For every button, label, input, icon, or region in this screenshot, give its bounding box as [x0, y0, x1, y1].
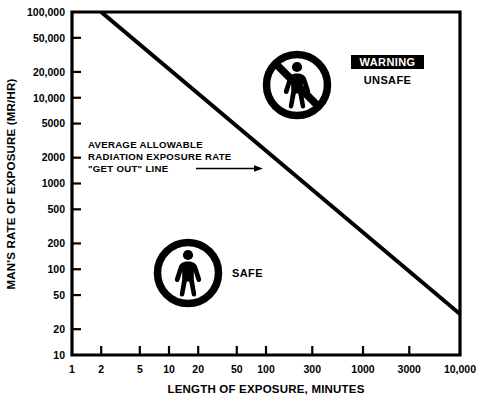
y-axis-tick-label: 50,000 — [33, 32, 65, 44]
x-axis-tick-label: 1 — [69, 363, 75, 375]
x-axis-tick-label: 20 — [192, 363, 204, 375]
unsafe-zone-label: UNSAFE — [364, 74, 412, 86]
y-axis-tick-label: 200 — [47, 237, 65, 249]
y-axis-tick-label: 5000 — [42, 117, 66, 129]
y-axis-tick-label: 20 — [53, 323, 65, 335]
annotation-line-2: RADIATION EXPOSURE RATE — [88, 151, 232, 162]
chart-canvas: 100,00050,00020,00010,000500020001000500… — [0, 0, 485, 403]
x-axis-tick-label: 10 — [163, 363, 175, 375]
x-axis-tick-label: 2 — [98, 363, 104, 375]
x-axis-tick-label: 300 — [304, 363, 322, 375]
warning-badge-label: WARNING — [360, 56, 416, 68]
safe-zone-label: SAFE — [232, 267, 263, 279]
y-axis-tick-label: 500 — [47, 203, 65, 215]
y-axis-title: MAN'S RATE OF EXPOSURE (MR/HR) — [5, 78, 17, 289]
y-axis-tick-label: 50 — [53, 289, 65, 301]
warning-badge: WARNING — [351, 55, 424, 69]
annotation-line-1: AVERAGE ALLOWABLE — [88, 139, 203, 150]
y-axis-tick-label: 1000 — [42, 177, 66, 189]
annotation-line-3: "GET OUT" LINE — [88, 163, 169, 174]
x-axis-tick-label: 3000 — [398, 363, 422, 375]
y-axis-tick-label: 100 — [47, 263, 65, 275]
y-axis-tick-label: 2000 — [42, 151, 66, 163]
radiation-exposure-chart: 100,00050,00020,00010,000500020001000500… — [0, 0, 485, 403]
x-axis-title: LENGTH OF EXPOSURE, MINUTES — [167, 383, 364, 395]
x-axis-tick-label: 100 — [257, 363, 275, 375]
x-axis-tick-label: 10,000 — [444, 363, 476, 375]
y-axis-tick-label: 10,000 — [33, 92, 65, 104]
y-axis-tick-label: 100,000 — [27, 6, 65, 18]
x-axis-tick-label: 50 — [231, 363, 243, 375]
y-axis-tick-label: 10 — [53, 349, 65, 361]
y-axis-tick-label: 20,000 — [33, 66, 65, 78]
x-axis-tick-label: 1000 — [351, 363, 375, 375]
x-axis-tick-label: 5 — [137, 363, 143, 375]
